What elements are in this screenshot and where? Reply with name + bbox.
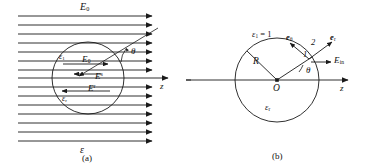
panel-a-field-lines [18,16,152,141]
panel-b-origin-dot [275,78,279,82]
panel-a-scattered-field-label: Es [95,72,103,81]
panel-b-internal-field-label: Ein [334,56,344,66]
panel-a-eps-top-label: ε1 [59,53,65,62]
panel-b-region-1-label: 1 [303,50,307,59]
panel-b-unit-vector-r-label: er [330,33,336,42]
figure-container: E0 ε ε1 εr E0 Es Er θ z (a) ε1 = 1 εr R … [0,0,367,166]
panel-a-field-top-label: E0 [80,2,89,13]
panel-a-z-axis-label: z [160,82,164,91]
panel-a-caption: (a) [82,153,92,163]
panel-a-theta-label: θ [131,47,135,56]
panel-b-origin-label: O [273,84,280,94]
panel-b-radius-line [247,51,277,80]
panel-b-eps-outside-label: ε1 = 1 [252,30,271,39]
panel-b-caption: (b) [272,151,283,161]
panel-b-unit-vector-theta-label: eθ [286,33,293,42]
panel-a-reflected-field-label: Er [88,84,95,93]
figure-svg [0,0,367,166]
panel-b-z-axis-label: z [340,84,344,93]
panel-b-eps-inside-label: εr [265,103,270,112]
panel-b-radius-label: R [253,57,259,67]
panel-b-region-2-label: 2 [311,38,315,47]
panel-a-inner-field-label: E0 [82,55,90,65]
panel-a-eps-bottom-label: εr [62,95,67,104]
panel-b-theta-label: θ [306,66,310,75]
